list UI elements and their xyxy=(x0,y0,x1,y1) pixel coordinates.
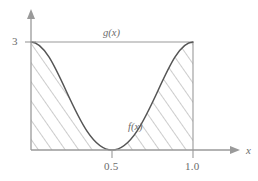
x-axis-name-label: x xyxy=(246,145,251,156)
y-axis-value-label: 3 xyxy=(12,36,18,47)
curve-label-g: g(x) xyxy=(103,28,120,39)
x-tick-label-half: 0.5 xyxy=(104,161,118,172)
hatched-region-left xyxy=(28,38,118,154)
x-axis-arrow-icon xyxy=(230,146,240,154)
math-figure: 3 g(x) f(x) 0.5 1.0 x xyxy=(0,0,258,181)
x-tick-label-one: 1.0 xyxy=(185,161,199,172)
plot-canvas xyxy=(0,0,258,181)
y-axis-arrow-icon xyxy=(27,9,35,19)
curve-label-f: f(x) xyxy=(128,122,143,133)
